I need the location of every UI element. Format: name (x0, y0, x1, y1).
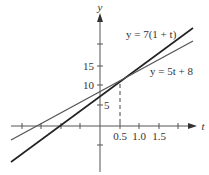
y-tick-label: 5 (104, 99, 110, 111)
x-tick-label: 1.0 (132, 130, 146, 142)
x-tick-label: 0.5 (113, 130, 127, 142)
x-axis-label: t (201, 120, 205, 132)
y-axis-label: y (97, 1, 103, 13)
line1-label: y = 7(1 + t) (126, 28, 177, 41)
x-axis-arrow-icon (188, 123, 197, 129)
x-tick-label: 1.5 (152, 130, 166, 142)
y-tick-label: 15 (83, 60, 95, 72)
line-5t-plus-8 (11, 41, 193, 140)
y-tick-label: 10 (83, 79, 95, 91)
y-axis-arrow-icon (97, 13, 103, 22)
chart: y t y = 7(1 + t) y = 5t + 8 0.5 1.0 1.5 … (0, 0, 209, 175)
line2-label: y = 5t + 8 (150, 65, 193, 77)
x-axis (11, 123, 197, 129)
